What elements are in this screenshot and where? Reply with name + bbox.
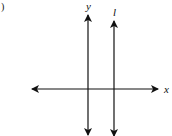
- paren-fragment: ): [1, 1, 4, 13]
- diagram: ) x y l: [0, 0, 172, 136]
- x-axis-label: x: [163, 83, 169, 95]
- line-l-label: l: [113, 6, 116, 18]
- y-axis-label: y: [85, 0, 91, 12]
